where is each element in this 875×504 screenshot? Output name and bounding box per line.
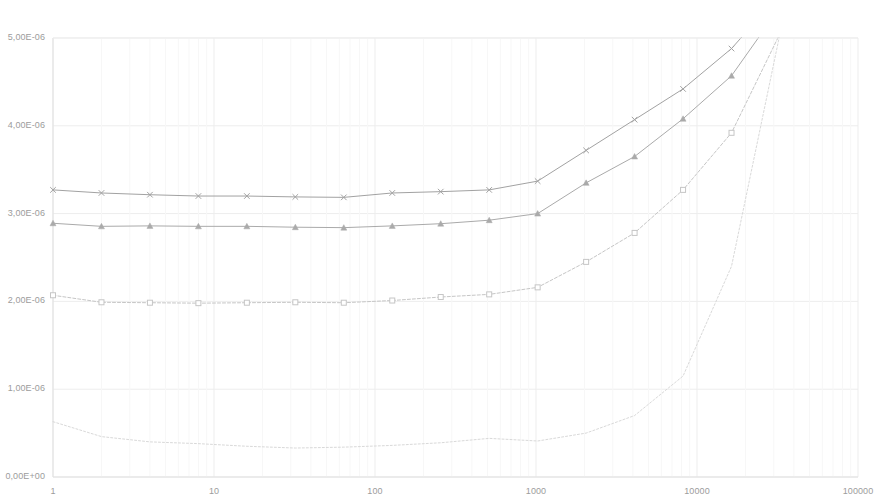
data-point-marker (341, 300, 346, 305)
data-point-marker (196, 301, 201, 306)
y-axis-tick-label: 5,00E-06 (0, 32, 45, 42)
x-axis-tick-label: 10 (174, 486, 254, 496)
data-point-marker (390, 298, 395, 303)
x-axis-tick-label: 1 (13, 486, 93, 496)
data-point-marker (99, 300, 104, 305)
data-point-marker (293, 300, 298, 305)
series-pingping (50, 7, 780, 230)
data-point-marker (147, 300, 152, 305)
y-axis-tick-label: 3,00E-06 (0, 208, 45, 218)
x-axis-tick-label: 1000 (496, 486, 576, 496)
y-axis-tick-label: 0,00E+00 (0, 471, 45, 481)
plot-area (0, 0, 875, 504)
x-axis-tick-label: 100 (335, 486, 415, 496)
data-point-marker (535, 285, 540, 290)
data-point-marker (584, 259, 589, 264)
series-sx1 (53, 34, 780, 448)
data-point-marker (244, 300, 249, 305)
data-point-marker (729, 130, 734, 135)
series-line-pingoong (53, 34, 780, 304)
chart-container: sx1pingoongpingpingpongpong 0,00E+001,00… (0, 0, 875, 504)
top-mask (0, 0, 875, 37)
x-axis-tick-label: 100000 (818, 486, 875, 496)
series-line-sx1 (53, 34, 780, 448)
data-point-marker (632, 230, 637, 235)
x-axis-tick-label: 10000 (657, 486, 737, 496)
data-point-marker (729, 46, 735, 52)
data-point-marker (681, 187, 686, 192)
series-pingoong (51, 34, 780, 306)
data-point-marker (487, 292, 492, 297)
data-point-marker (438, 295, 443, 300)
y-axis-tick-label: 4,00E-06 (0, 120, 45, 130)
data-point-marker (51, 293, 56, 298)
y-axis-tick-label: 2,00E-06 (0, 295, 45, 305)
y-axis-tick-label: 1,00E-06 (0, 383, 45, 393)
